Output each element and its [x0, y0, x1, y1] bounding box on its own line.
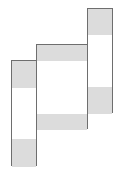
column-left [11, 60, 37, 166]
shaded-region-top [37, 45, 87, 61]
shaded-region-bottom [12, 139, 36, 167]
column-right [87, 8, 113, 113]
column-middle [36, 44, 88, 129]
shaded-region-top [88, 9, 112, 35]
shaded-region-top [12, 61, 36, 88]
shaded-region-bottom [88, 87, 112, 114]
shaded-region-bottom [37, 114, 87, 130]
